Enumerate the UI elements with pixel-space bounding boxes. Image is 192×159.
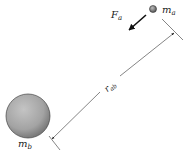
mass-b-sphere <box>6 94 50 138</box>
extension-line-a <box>162 19 183 40</box>
gravitation-diagram: ma Fa rab mb <box>0 0 192 159</box>
force-arrow <box>129 15 146 30</box>
distance-line-upper <box>120 33 174 76</box>
mass-a-sphere <box>150 6 157 13</box>
mass-a-label: ma <box>162 4 176 17</box>
distance-line-lower <box>52 92 100 139</box>
mass-b-label: mb <box>18 138 32 151</box>
force-label: Fa <box>110 9 122 22</box>
extension-line-b <box>49 136 60 150</box>
distance-label: rab <box>102 79 118 95</box>
